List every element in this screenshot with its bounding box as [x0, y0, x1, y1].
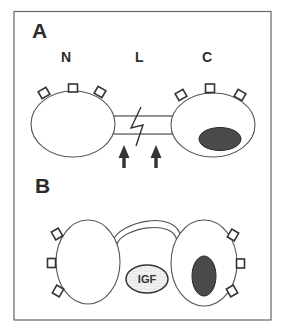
receptor-icon: [237, 259, 245, 268]
nucleus-b: [192, 256, 216, 296]
igf-label: IGF: [138, 273, 157, 285]
cell-right-b: [171, 220, 245, 306]
cell-n: [31, 84, 115, 157]
nucleus-a: [199, 128, 241, 151]
cell-left-b: [48, 220, 121, 304]
cell-fusion-diagram: A N L C: [0, 0, 288, 334]
receptor-icon: [69, 84, 78, 92]
igf-molecule: IGF: [126, 265, 168, 293]
label-n: N: [61, 49, 71, 65]
label-l: L: [135, 49, 144, 65]
cell-c: [171, 84, 255, 157]
panel-a-letter: A: [32, 19, 47, 42]
receptor-icon: [206, 84, 215, 93]
label-c: C: [202, 49, 212, 65]
panel-b-letter: B: [35, 174, 50, 197]
receptor-icon: [48, 259, 56, 268]
